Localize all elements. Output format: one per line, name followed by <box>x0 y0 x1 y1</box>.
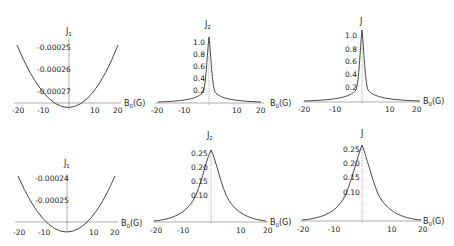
y-tick: 0.10 <box>343 188 360 197</box>
x-axis-label: B0(G) <box>121 219 142 229</box>
x-tick: 10 <box>385 105 395 114</box>
y-tick: 0.25 <box>343 145 360 154</box>
x-axis-label: B0(G) <box>423 97 444 107</box>
x-axis-label: B0(G) <box>270 218 291 228</box>
curve-j2 <box>158 37 261 102</box>
x-tick: 20 <box>412 105 422 114</box>
curve-j2 <box>154 150 266 221</box>
y-tick: 0.15 <box>343 173 360 182</box>
y-tick: 0.20 <box>343 159 360 168</box>
curve-j <box>302 145 421 220</box>
x-tick: -10 <box>178 106 190 115</box>
x-tick: 20 <box>113 106 123 115</box>
y-tick: -0.00024 <box>35 174 69 183</box>
x-tick: -10 <box>329 105 341 114</box>
y-tick: 1.0 <box>193 38 205 47</box>
y-tick: 0.15 <box>191 177 208 186</box>
x-tick: 10 <box>89 228 99 237</box>
x-tick: 10 <box>90 106 100 115</box>
panel-bottom-middle: J2 0.25 0.20 0.15 0.10 -20 -10 10 20 B0(… <box>150 131 291 235</box>
y-tick: -0.00027 <box>37 87 71 96</box>
y-tick: 0.6 <box>193 62 205 71</box>
y-axis-label: J <box>360 129 363 138</box>
y-tick: 0.10 <box>191 191 208 200</box>
x-tick: -10 <box>177 226 189 235</box>
x-tick: -20 <box>13 228 25 237</box>
x-tick: -10 <box>328 225 340 234</box>
x-tick: 10 <box>387 225 397 234</box>
x-tick: -20 <box>150 226 162 235</box>
y-axis-label: J1 <box>63 159 70 169</box>
panel-bottom-left: J1 -0.00024 -0.00025 -20 -10 10 20 B0(G) <box>13 159 142 237</box>
y-tick: -0.00026 <box>37 65 71 74</box>
x-tick: 10 <box>232 106 242 115</box>
y-tick: 0.25 <box>191 149 208 158</box>
x-tick: -20 <box>298 105 310 114</box>
x-tick: 10 <box>236 226 246 235</box>
y-tick: -0.00025 <box>35 196 69 205</box>
x-tick: -20 <box>297 225 309 234</box>
y-tick: 1.0 <box>345 31 357 40</box>
panel-bottom-right: J 0.25 0.20 0.15 0.10 -20 -10 10 20 B0(G… <box>297 129 444 234</box>
panel-top-middle: J2 1.0 0.8 0.6 0.4 0.2 -20 -10 10 20 B0(… <box>151 20 291 115</box>
x-tick: 20 <box>256 106 266 115</box>
y-tick: 0.8 <box>193 50 205 59</box>
x-axis-label: B0(G) <box>270 99 291 109</box>
y-tick: -0.00025 <box>37 43 71 52</box>
curve-j1 <box>17 45 118 108</box>
panel-top-right: J 1.0 0.8 0.6 0.4 0.2 -20 -10 10 20 B0(G… <box>298 17 444 114</box>
x-tick: -20 <box>151 106 163 115</box>
x-tick: 20 <box>263 226 273 235</box>
y-tick: 0.20 <box>191 163 208 172</box>
y-tick: 0.8 <box>345 45 357 54</box>
y-tick: 0.2 <box>193 86 205 95</box>
x-tick: -10 <box>38 228 50 237</box>
x-tick: 20 <box>418 225 428 234</box>
panel-top-left: J1 -0.00025 -0.00026 -0.00027 -20 -10 10… <box>12 27 145 115</box>
y-tick: 0.4 <box>193 74 205 83</box>
y-tick: 0.4 <box>345 70 357 79</box>
x-tick: -20 <box>12 106 24 115</box>
y-axis-label: J2 <box>204 20 211 30</box>
y-axis-label: J2 <box>206 131 213 141</box>
figure-grid: J1 -0.00025 -0.00026 -0.00027 -20 -10 10… <box>0 0 454 246</box>
x-axis-label: B0(G) <box>423 217 444 227</box>
y-axis-label: J <box>359 17 362 26</box>
y-tick: 0.2 <box>345 83 357 92</box>
y-axis-label: J1 <box>65 27 72 37</box>
x-axis-label: B0(G) <box>124 99 145 109</box>
x-tick: -10 <box>37 106 49 115</box>
x-tick: 20 <box>110 228 120 237</box>
y-tick: 0.6 <box>345 57 357 66</box>
